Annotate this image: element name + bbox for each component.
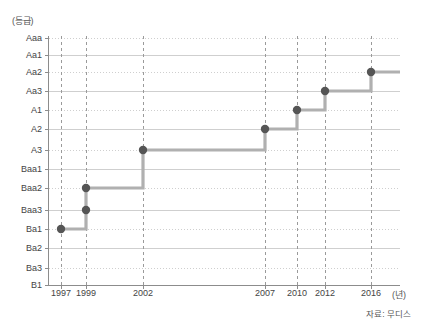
x-axis-tick-label: 2012 xyxy=(305,288,345,298)
y-axis-tick-label: Ba3 xyxy=(0,263,42,273)
x-axis-tick-label: 2002 xyxy=(123,288,163,298)
y-axis-tick-label: Aa3 xyxy=(0,86,42,96)
horizontal-gridlines xyxy=(49,39,400,286)
y-axis-tick-label: Baa1 xyxy=(0,164,42,174)
x-axis-tick-label: 1999 xyxy=(66,288,106,298)
axis-tick-marks xyxy=(45,39,372,290)
y-axis-tick-label: Baa2 xyxy=(0,183,42,193)
y-axis-tick-label: A2 xyxy=(0,124,42,134)
x-axis-tick-label: 2016 xyxy=(351,288,391,298)
y-axis-tick-label: Aa2 xyxy=(0,67,42,77)
y-axis-tick-label: Ba1 xyxy=(0,224,42,234)
credit-rating-chart: (등급) (년) 자료: 무디스 AaaAa1Aa2Aa3A1A2A3Baa1B… xyxy=(0,0,425,330)
chart-canvas xyxy=(0,0,425,330)
y-axis-tick-label: Aa1 xyxy=(0,50,42,60)
vertical-dashed-gridlines xyxy=(62,36,372,285)
y-axis-tick-label: B1 xyxy=(0,280,42,290)
y-axis-tick-label: A1 xyxy=(0,105,42,115)
y-axis-tick-label: Baa3 xyxy=(0,205,42,215)
y-axis-tick-label: A3 xyxy=(0,145,42,155)
y-axis-tick-label: Aaa xyxy=(0,33,42,43)
y-axis-tick-label: Ba2 xyxy=(0,243,42,253)
